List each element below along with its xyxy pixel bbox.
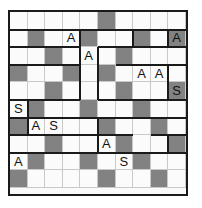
grid-cell[interactable]	[98, 65, 116, 83]
grid-cell[interactable]	[116, 47, 134, 65]
grid-cell[interactable]	[10, 65, 28, 83]
grid-cell[interactable]	[63, 82, 81, 100]
grid-cell[interactable]	[63, 153, 81, 171]
grid-cell[interactable]	[28, 170, 46, 188]
grid-cell[interactable]	[45, 135, 63, 153]
grid-cell[interactable]	[98, 118, 116, 136]
grid-cell[interactable]	[133, 170, 151, 188]
grid-cell[interactable]	[63, 135, 81, 153]
grid-cell[interactable]	[10, 118, 28, 136]
grid-cell[interactable]	[63, 47, 81, 65]
grid-cell[interactable]	[116, 30, 134, 48]
grid-cell[interactable]	[45, 47, 63, 65]
grid-cell[interactable]	[133, 135, 151, 153]
grid-cell[interactable]: S	[116, 153, 134, 171]
grid-cell[interactable]	[151, 170, 169, 188]
grid-cell[interactable]	[98, 82, 116, 100]
grid-cell[interactable]: A	[80, 47, 98, 65]
grid-cell[interactable]: S	[10, 100, 28, 118]
grid-cell[interactable]	[45, 65, 63, 83]
grid-cell[interactable]	[168, 118, 186, 136]
grid-cell[interactable]	[133, 30, 151, 48]
grid-cell[interactable]	[80, 82, 98, 100]
grid-cell[interactable]	[10, 30, 28, 48]
grid-cell[interactable]	[80, 153, 98, 171]
grid-cell[interactable]: A	[168, 30, 186, 48]
grid-cell[interactable]	[168, 153, 186, 171]
grid-cell[interactable]	[63, 118, 81, 136]
grid-cell[interactable]	[80, 12, 98, 30]
grid-cell[interactable]: A	[151, 65, 169, 83]
grid-cell[interactable]: A	[98, 135, 116, 153]
grid-cell[interactable]	[116, 100, 134, 118]
grid-cell[interactable]	[80, 118, 98, 136]
grid-cell[interactable]	[10, 82, 28, 100]
grid-cell[interactable]	[168, 135, 186, 153]
grid-cell[interactable]	[45, 12, 63, 30]
grid-cell[interactable]	[28, 135, 46, 153]
grid-cell[interactable]	[151, 82, 169, 100]
grid-cell[interactable]	[116, 170, 134, 188]
grid-cell[interactable]: A	[63, 30, 81, 48]
grid-cell[interactable]	[98, 153, 116, 171]
grid-cell[interactable]	[28, 153, 46, 171]
grid-cell[interactable]	[63, 12, 81, 30]
puzzle-grid[interactable]: AAAAASSASAAS	[8, 10, 188, 196]
grid-cell[interactable]	[151, 118, 169, 136]
grid-cell[interactable]	[80, 65, 98, 83]
grid-cell[interactable]	[98, 47, 116, 65]
grid-cell[interactable]	[45, 170, 63, 188]
grid-cell[interactable]: A	[28, 118, 46, 136]
grid-cell[interactable]	[168, 12, 186, 30]
grid-cell[interactable]	[45, 82, 63, 100]
grid-cell[interactable]	[28, 65, 46, 83]
grid-cell[interactable]	[80, 170, 98, 188]
grid-cell[interactable]	[168, 47, 186, 65]
grid-cell[interactable]	[151, 30, 169, 48]
grid-cell[interactable]	[151, 100, 169, 118]
grid-cell[interactable]	[45, 153, 63, 171]
grid-cell[interactable]	[63, 65, 81, 83]
grid-cell[interactable]	[133, 47, 151, 65]
grid-cell[interactable]	[116, 82, 134, 100]
grid-cell[interactable]: S	[45, 118, 63, 136]
grid-cell[interactable]	[116, 12, 134, 30]
grid-cell[interactable]	[10, 47, 28, 65]
grid-cell[interactable]	[45, 100, 63, 118]
grid-cell[interactable]	[116, 65, 134, 83]
grid-cell[interactable]	[116, 135, 134, 153]
grid-cell[interactable]	[98, 170, 116, 188]
grid-cell[interactable]	[80, 30, 98, 48]
grid-cell[interactable]	[133, 100, 151, 118]
grid-cell[interactable]	[28, 47, 46, 65]
grid-cell[interactable]	[168, 170, 186, 188]
grid-cell[interactable]	[80, 100, 98, 118]
grid-cell[interactable]	[10, 170, 28, 188]
grid-cell[interactable]	[168, 100, 186, 118]
grid-cell[interactable]	[133, 12, 151, 30]
grid-cell[interactable]	[98, 100, 116, 118]
grid-cell[interactable]	[151, 12, 169, 30]
grid-cell[interactable]	[63, 170, 81, 188]
grid-cell[interactable]	[133, 82, 151, 100]
grid-cell[interactable]	[151, 135, 169, 153]
grid-cell[interactable]	[45, 30, 63, 48]
grid-cell[interactable]	[28, 12, 46, 30]
grid-cell[interactable]	[168, 65, 186, 83]
grid-cell[interactable]	[133, 118, 151, 136]
grid-cell[interactable]	[10, 12, 28, 30]
grid-cell[interactable]: A	[133, 65, 151, 83]
grid-cell[interactable]	[151, 47, 169, 65]
grid-cell[interactable]	[10, 135, 28, 153]
grid-cell[interactable]	[63, 100, 81, 118]
grid-cell[interactable]	[28, 100, 46, 118]
grid-cell[interactable]	[80, 135, 98, 153]
grid-cell[interactable]	[151, 153, 169, 171]
grid-cell[interactable]: A	[10, 153, 28, 171]
grid-cell[interactable]: S	[168, 82, 186, 100]
grid-cell[interactable]	[28, 30, 46, 48]
grid-cell[interactable]	[28, 82, 46, 100]
grid-cell[interactable]	[116, 118, 134, 136]
grid-cell[interactable]	[98, 30, 116, 48]
grid-cell[interactable]	[98, 12, 116, 30]
